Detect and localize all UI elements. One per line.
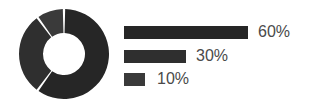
donut-segment-2[interactable] (19, 18, 51, 89)
legend-swatch-segment-1 (124, 26, 248, 39)
donut-chart-graphic (19, 9, 109, 99)
legend-swatch-segment-2 (124, 50, 186, 63)
legend-item-segment-1[interactable]: 60% (124, 25, 290, 39)
legend-label-segment-2: 30% (196, 48, 228, 64)
chart-legend: 60% 30% 10% (124, 24, 304, 88)
legend-item-segment-2[interactable]: 30% (124, 49, 228, 63)
legend-label-segment-1: 60% (258, 24, 290, 40)
legend-item-segment-3[interactable]: 10% (124, 72, 189, 86)
legend-label-segment-3: 10% (157, 71, 189, 87)
donut-segments (19, 9, 109, 99)
legend-swatch-segment-3 (124, 73, 145, 86)
donut-chart-figure: 60% 30% 10% (0, 0, 311, 106)
